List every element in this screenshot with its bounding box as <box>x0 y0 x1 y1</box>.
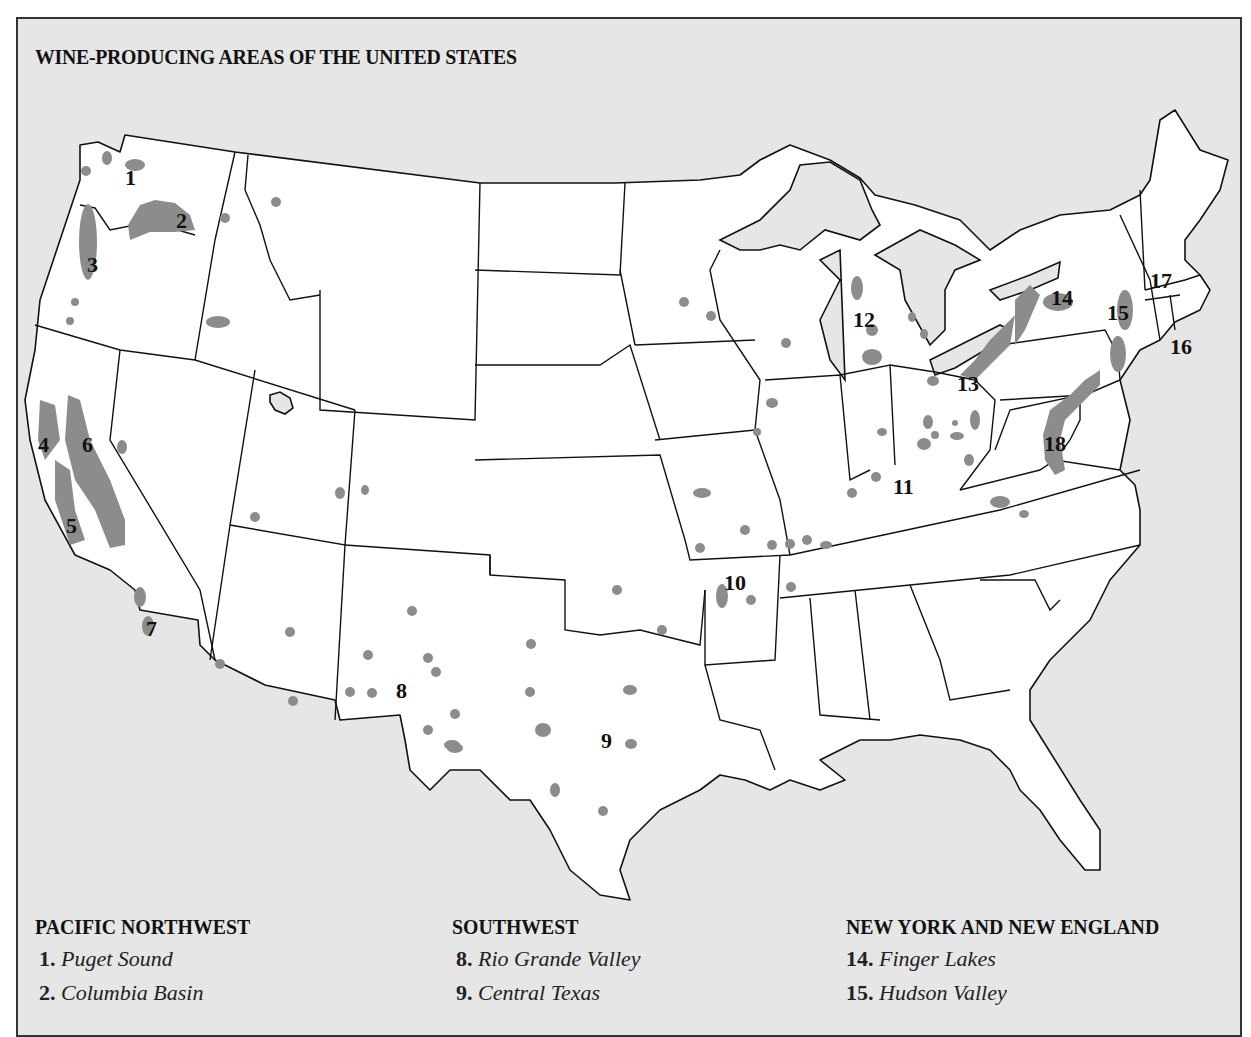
region-label-12: 12 <box>853 307 875 332</box>
legend-name: Hudson Valley <box>879 980 1007 1005</box>
legend-item: 1. Puget Sound <box>35 946 274 972</box>
legend-number: 9. <box>456 980 473 1005</box>
region-label-7: 7 <box>146 616 157 641</box>
region-label-8: 8 <box>396 678 407 703</box>
region-label-15: 15 <box>1107 300 1129 325</box>
region-label-10: 10 <box>724 570 746 595</box>
legend-name: Puget Sound <box>61 946 173 971</box>
legend-item: 14. Finger Lakes <box>846 946 1194 972</box>
legend-number: 8. <box>456 946 473 971</box>
legend-number: 14. <box>846 946 874 971</box>
land-mass <box>25 110 1228 900</box>
legend-item: 2. Columbia Basin <box>35 980 274 1006</box>
region-label-16: 16 <box>1170 334 1192 359</box>
legend-item: 8. Rio Grande Valley <box>452 946 641 972</box>
legend-name: Central Texas <box>478 980 600 1005</box>
legend-number: 1. <box>39 946 56 971</box>
legend-heading: PACIFIC NORTHWEST <box>35 914 250 940</box>
region-label-11: 11 <box>893 474 914 499</box>
legend-heading: SOUTHWEST <box>452 914 622 940</box>
region-label-18: 18 <box>1044 431 1066 456</box>
region-label-1: 1 <box>125 165 136 190</box>
region-label-14: 14 <box>1051 285 1073 310</box>
legend-number: 2. <box>39 980 56 1005</box>
legend-name: Rio Grande Valley <box>478 946 641 971</box>
region-label-9: 9 <box>601 728 612 753</box>
legend-number: 15. <box>846 980 874 1005</box>
region-label-2: 2 <box>176 208 187 233</box>
region-label-5: 5 <box>66 513 77 538</box>
legend-heading: NEW YORK AND NEW ENGLAND <box>846 914 1159 940</box>
region-label-4: 4 <box>38 432 49 457</box>
legend-southwest: SOUTHWEST 8. Rio Grande Valley 9. Centra… <box>452 914 641 1014</box>
legend-name: Finger Lakes <box>879 946 996 971</box>
legend-item: 15. Hudson Valley <box>846 980 1194 1006</box>
region-label-6: 6 <box>82 432 93 457</box>
legend-pacific-northwest: PACIFIC NORTHWEST 1. Puget Sound 2. Colu… <box>35 914 274 1014</box>
region-label-17: 17 <box>1150 268 1172 293</box>
legend-item: 9. Central Texas <box>452 980 641 1006</box>
land-west-coast <box>25 110 1228 900</box>
legend-name: Columbia Basin <box>61 980 203 1005</box>
region-label-3: 3 <box>87 252 98 277</box>
region-label-13: 13 <box>957 371 979 396</box>
legend-new-york-new-england: NEW YORK AND NEW ENGLAND 14. Finger Lake… <box>846 914 1194 1014</box>
